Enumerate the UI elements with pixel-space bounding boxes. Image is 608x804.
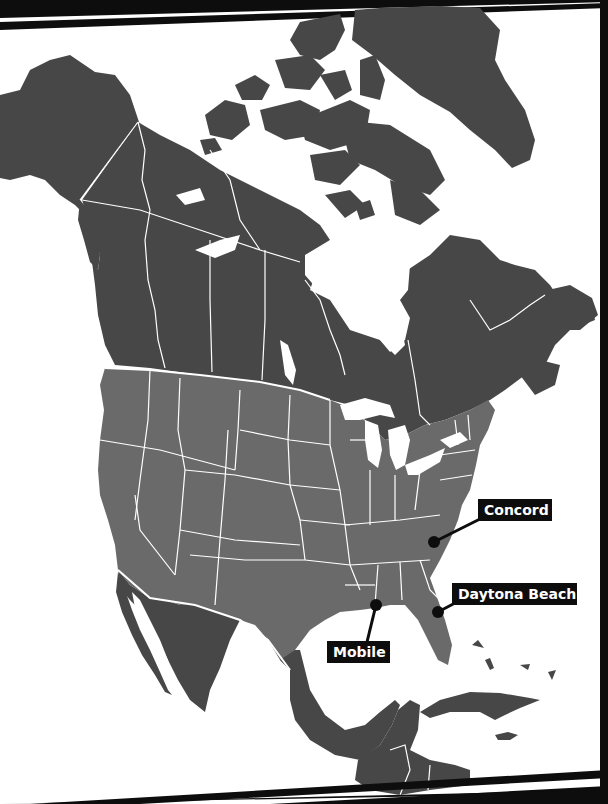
mobile-label[interactable]: Mobile: [327, 641, 390, 663]
concord-marker-dot[interactable]: [428, 536, 440, 548]
daytona-beach-label[interactable]: Daytona Beach: [452, 583, 577, 605]
mobile-marker-dot[interactable]: [370, 599, 382, 611]
map-canvas: [0, 0, 608, 804]
north-america-map: Concord Daytona Beach Mobile: [0, 0, 608, 804]
daytona-beach-marker-dot[interactable]: [432, 606, 444, 618]
greenland-west-fragment: [290, 14, 345, 60]
bottom-frame-stripes: [0, 770, 608, 804]
right-frame-bar: [600, 0, 608, 804]
concord-label[interactable]: Concord: [478, 499, 552, 521]
